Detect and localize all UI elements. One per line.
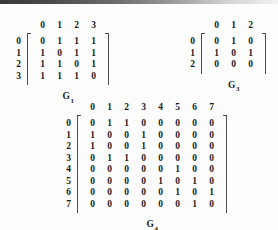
matrix-cell: 0	[84, 118, 101, 130]
matrix-cell: 0	[208, 59, 225, 71]
column-header: 2	[242, 20, 259, 31]
matrix-cell: 1	[68, 48, 85, 60]
matrix-row: 1011	[34, 48, 102, 60]
matrix-cell: 0	[68, 59, 85, 71]
matrix-row: 010	[208, 36, 259, 48]
matrix-cell: 1	[101, 118, 118, 130]
matrix-row-headers-g4: 01234567	[62, 115, 75, 213]
matrix-cell: 0	[118, 199, 135, 211]
matrix-grid-g1: 012301230111101111011110G1	[12, 18, 111, 104]
matrix-row: 0111	[34, 36, 102, 48]
matrix-cell: 1	[68, 71, 85, 83]
matrix-cell: 0	[169, 153, 186, 165]
matrix-cell: 0	[152, 130, 169, 142]
left-bracket-icon	[25, 33, 33, 85]
matrix-cell: 0	[101, 187, 118, 199]
caption-base: G	[147, 219, 154, 229]
matrix-figure-g3: 012012010101000G3	[186, 18, 268, 92]
matrix-cell: 1	[34, 48, 51, 60]
matrix-cell: 0	[203, 199, 220, 211]
matrix-cell: 0	[51, 48, 68, 60]
matrix-cell: 1	[84, 141, 101, 153]
matrix-cell: 0	[34, 36, 51, 48]
matrix-caption-g3: G3	[186, 80, 268, 93]
right-bracket-icon	[260, 33, 268, 74]
matrix-cells-g1: 0111101111011110	[33, 33, 103, 85]
matrix-cells-g3: 010101000	[207, 33, 260, 74]
matrix-row: 01100000	[84, 118, 220, 130]
caption-subscript: 4	[154, 225, 158, 230]
row-header: 1	[12, 48, 25, 60]
caption-base: G	[228, 80, 235, 90]
right-bracket-icon	[103, 33, 111, 85]
matrix-cell: 1	[34, 59, 51, 71]
matrix-row: 10010000	[84, 130, 220, 142]
matrix-cell: 0	[208, 36, 225, 48]
matrix-row: 000	[208, 59, 259, 71]
matrix-cell: 1	[203, 187, 220, 199]
matrix-row-headers-g3: 012	[186, 33, 199, 74]
matrix-cell: 0	[242, 59, 259, 71]
matrix-body-g1: 01230111101111011110	[12, 33, 111, 85]
left-bracket-icon	[199, 33, 207, 74]
row-header: 3	[62, 153, 75, 165]
matrix-cell: 1	[85, 36, 102, 48]
matrix-figure-g4: 0123456701234567011000001001000010010000…	[62, 100, 229, 230]
matrix-cell: 0	[84, 176, 101, 188]
matrix-cell: 0	[101, 176, 118, 188]
matrix-row: 00000100	[84, 164, 220, 176]
matrix-cell: 1	[101, 153, 118, 165]
matrix-cell: 0	[135, 199, 152, 211]
matrix-cells-g4: 0110000010010000100100000110000000000100…	[83, 115, 221, 213]
column-header: 0	[208, 20, 225, 31]
matrix-row: 00001010	[84, 176, 220, 188]
matrix-row-headers-g1: 0123	[12, 33, 25, 85]
matrix-row: 00000010	[84, 199, 220, 211]
row-header: 0	[62, 118, 75, 130]
matrix-cell: 1	[135, 141, 152, 153]
row-header: 1	[62, 130, 75, 142]
matrix-cell: 0	[169, 130, 186, 142]
row-header: 6	[62, 187, 75, 199]
matrix-cell: 0	[84, 164, 101, 176]
matrix-cell: 0	[242, 36, 259, 48]
matrix-cell: 1	[84, 130, 101, 142]
matrix-cell: 1	[51, 36, 68, 48]
matrix-cell: 1	[68, 36, 85, 48]
matrix-row: 01100000	[84, 153, 220, 165]
matrix-cell: 0	[169, 176, 186, 188]
row-header: 2	[186, 59, 199, 71]
left-bracket-icon	[75, 115, 83, 213]
matrix-cell: 1	[186, 199, 203, 211]
matrix-row: 101	[208, 48, 259, 60]
matrix-cell: 0	[225, 48, 242, 60]
matrix-cell: 0	[186, 130, 203, 142]
matrix-cell: 0	[203, 141, 220, 153]
matrix-cell: 0	[225, 59, 242, 71]
column-header: 6	[186, 102, 203, 113]
matrix-cell: 0	[186, 187, 203, 199]
matrix-cell: 0	[152, 164, 169, 176]
matrix-caption-g4: G4	[62, 219, 229, 230]
matrix-cell: 1	[118, 153, 135, 165]
matrix-cell: 0	[135, 187, 152, 199]
matrix-grid-g4: 0123456701234567011000001001000010010000…	[62, 100, 229, 230]
matrix-body-g3: 012010101000	[186, 33, 268, 74]
matrix-cell: 0	[203, 130, 220, 142]
matrix-row: 10010000	[84, 141, 220, 153]
matrix-cell: 0	[84, 199, 101, 211]
figure-page: 012301230111101111011110G1 0120120101010…	[0, 0, 278, 230]
matrix-cell: 0	[85, 71, 102, 83]
matrix-cell: 0	[84, 153, 101, 165]
scan-edge-artifact	[0, 0, 278, 4]
matrix-cell: 0	[152, 187, 169, 199]
matrix-cell: 0	[169, 199, 186, 211]
right-bracket-icon	[221, 115, 229, 213]
column-header: 1	[101, 102, 118, 113]
column-header: 1	[225, 20, 242, 31]
matrix-cell: 1	[186, 176, 203, 188]
column-header: 0	[84, 102, 101, 113]
matrix-cell: 0	[135, 118, 152, 130]
row-header: 2	[12, 59, 25, 71]
matrix-cell: 0	[84, 187, 101, 199]
